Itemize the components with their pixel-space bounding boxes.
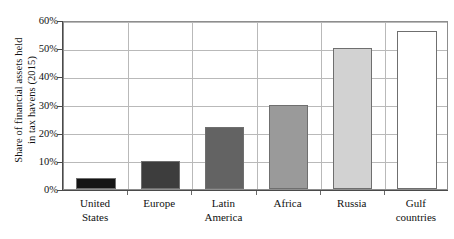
x-axis-tick-mark: [320, 191, 321, 195]
x-axis-tick-mark: [256, 191, 257, 195]
category-separator: [128, 22, 129, 189]
x-axis-tick-label-line: Gulf: [384, 196, 448, 210]
x-axis-tick-label: Europe: [127, 196, 191, 210]
x-axis-tick-labels: UnitedStatesEuropeLatinAmericaAfricaRuss…: [63, 196, 448, 236]
gridline: [64, 78, 447, 79]
y-axis-tick-mark: [57, 77, 63, 78]
x-axis-tick-mark: [384, 191, 385, 195]
y-axis-tick-labels: 0%10%20%30%40%50%60%: [26, 16, 58, 192]
y-axis-tick-mark: [57, 106, 63, 107]
category-separator: [192, 22, 193, 189]
category-separator: [385, 22, 386, 189]
x-axis-tick-label-line: United: [63, 196, 127, 210]
y-axis-tick-mark: [57, 49, 63, 50]
bar-united-states: [76, 178, 115, 189]
bar-russia: [333, 48, 372, 189]
x-axis-tick-label-line: Latin: [191, 196, 255, 210]
x-axis-tick-mark: [191, 191, 192, 195]
x-axis-tick-mark: [127, 191, 128, 195]
bar-chart: Share of financial assets held in tax ha…: [0, 0, 454, 239]
x-axis-tick-label-line: Russia: [320, 196, 384, 210]
bar-africa: [269, 105, 308, 190]
x-axis-tick-label: UnitedStates: [63, 196, 127, 224]
x-axis-tick-label-line: States: [63, 210, 127, 224]
y-axis-title-line-1: Share of financial assets held: [12, 12, 25, 188]
y-axis-tick-label: 20%: [26, 129, 58, 140]
category-separator: [321, 22, 322, 189]
x-axis-tick-label-line: Africa: [256, 196, 320, 210]
gridline: [64, 162, 447, 163]
x-axis-tick-label-line: America: [191, 210, 255, 224]
gridline: [64, 106, 447, 107]
x-axis-tick-label-line: Europe: [127, 196, 191, 210]
x-axis-tick-label: Africa: [256, 196, 320, 210]
x-axis-tick-label: Gulfcountries: [384, 196, 448, 224]
y-axis-tick-label: 10%: [26, 157, 58, 168]
bar-latin-america: [205, 127, 244, 189]
x-axis-tick-label-line: countries: [384, 210, 448, 224]
x-axis-tick-label: LatinAmerica: [191, 196, 255, 224]
gridline: [64, 50, 447, 51]
y-axis-tick-label: 40%: [26, 72, 58, 83]
x-axis-tick-label: Russia: [320, 196, 384, 210]
y-axis-tick-label: 30%: [26, 101, 58, 112]
plot-area: [63, 21, 448, 190]
y-axis-tick-mark: [57, 162, 63, 163]
gridline: [64, 22, 447, 23]
bar-gulf-countries: [397, 31, 436, 189]
y-axis-tick-label: 50%: [26, 44, 58, 55]
gridline: [64, 134, 447, 135]
category-separator: [257, 22, 258, 189]
y-axis-tick-label: 0%: [26, 185, 58, 196]
y-axis-tick-mark: [57, 190, 63, 191]
y-axis-tick-mark: [57, 21, 63, 22]
y-axis-tick-label: 60%: [26, 16, 58, 27]
bar-europe: [141, 161, 180, 189]
y-axis-tick-mark: [57, 134, 63, 135]
